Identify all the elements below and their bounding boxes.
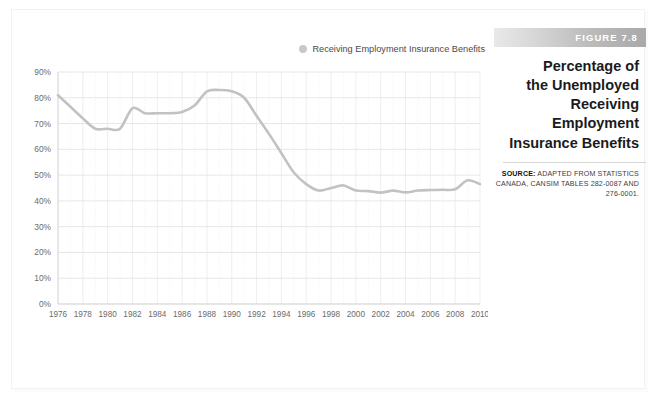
- y-axis-tick: 50%: [34, 170, 51, 180]
- x-axis-tick: 2000: [347, 310, 366, 319]
- caption-panel: FIGURE 7.8 Percentage of the Unemployed …: [494, 28, 646, 199]
- figure-title: Percentage of the Unemployed Receiving E…: [494, 57, 646, 153]
- x-axis-tick: 1986: [173, 310, 192, 319]
- legend-label: Receiving Employment Insurance Benefits: [312, 44, 485, 54]
- x-axis-tick: 2002: [372, 310, 391, 319]
- x-axis-tick: 1984: [148, 310, 167, 319]
- chart: Receiving Employment Insurance Benefits …: [18, 36, 488, 361]
- line-chart-svg: 0%10%20%30%40%50%60%70%80%90% 1976197819…: [18, 64, 488, 334]
- x-axis-tick: 2006: [421, 310, 440, 319]
- plot-area: 0%10%20%30%40%50%60%70%80%90% 1976197819…: [18, 64, 488, 334]
- figure-title-line-3: Receiving Employment: [494, 95, 639, 133]
- x-axis-tick: 1996: [297, 310, 316, 319]
- figure-number-label: FIGURE 7.8: [575, 32, 638, 43]
- legend-circle-icon: [299, 45, 307, 53]
- y-axis-tick: 20%: [34, 247, 51, 257]
- x-axis-tick: 1992: [247, 310, 266, 319]
- x-axis-tick: 2004: [396, 310, 415, 319]
- y-axis-tick: 90%: [34, 67, 51, 77]
- x-axis-tick: 1980: [99, 310, 118, 319]
- x-axis-tick: 2008: [446, 310, 465, 319]
- y-axis-tick: 40%: [34, 196, 51, 206]
- figure-title-line-1: Percentage of: [494, 57, 639, 76]
- x-axis-tick: 1988: [198, 310, 217, 319]
- y-axis-tick: 10%: [34, 273, 51, 283]
- figure-page: FIGURE 7.8 Percentage of the Unemployed …: [0, 0, 658, 406]
- x-axis-tick: 1990: [223, 310, 242, 319]
- y-axis-tick: 80%: [34, 93, 51, 103]
- y-axis-tick: 70%: [34, 119, 51, 129]
- figure-title-line-2: the Unemployed: [494, 76, 639, 95]
- x-axis-tick: 1998: [322, 310, 341, 319]
- x-axis-tick: 1982: [123, 310, 142, 319]
- x-axis-tick-labels: 1976197819801982198419861988199019921994…: [49, 310, 488, 319]
- y-axis-tick-labels: 0%10%20%30%40%50%60%70%80%90%: [34, 67, 51, 309]
- x-axis-tick: 1976: [49, 310, 68, 319]
- figure-title-line-4: Insurance Benefits: [494, 134, 639, 153]
- figure-number-bar: FIGURE 7.8: [494, 28, 646, 47]
- figure-source-note: SOURCE: ADAPTED FROM STATISTICS CANADA, …: [494, 169, 646, 200]
- y-axis-tick: 60%: [34, 144, 51, 154]
- caption-divider: [503, 162, 646, 163]
- y-axis-tick: 0%: [39, 299, 52, 309]
- x-axis-tick: 1994: [272, 310, 291, 319]
- x-axis-tick: 1978: [74, 310, 93, 319]
- chart-legend: Receiving Employment Insurance Benefits: [299, 44, 485, 54]
- minor-vertical-gridlines: [70, 72, 467, 304]
- y-axis-tick: 30%: [34, 222, 51, 232]
- x-axis-tick: 2010: [471, 310, 488, 319]
- figure-source-lead: SOURCE:: [502, 170, 536, 178]
